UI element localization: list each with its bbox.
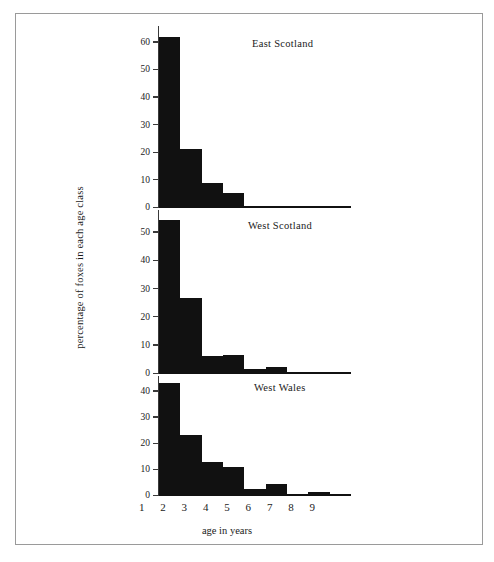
bar-group — [159, 376, 351, 496]
y-tick: 10 — [153, 469, 158, 470]
bar-slot — [330, 376, 351, 496]
y-tick-label: 40 — [141, 92, 151, 102]
x-tick-label: 7 — [259, 501, 280, 513]
bar — [159, 220, 180, 374]
y-tick-label: 20 — [141, 312, 151, 322]
bar-group — [159, 210, 351, 374]
panel-stack: East Scotland 0 10 20 30 40 50 60 West S… — [16, 14, 482, 544]
bar — [308, 206, 329, 208]
y-tick-label: 10 — [141, 464, 151, 474]
y-tick: 40 — [153, 260, 158, 261]
bar — [308, 372, 329, 374]
bar — [330, 372, 351, 374]
bar — [244, 206, 265, 208]
x-tick-label: 5 — [216, 501, 237, 513]
bar — [244, 369, 265, 374]
y-tick-label: 50 — [141, 227, 151, 237]
y-tick-label: 50 — [141, 64, 151, 74]
x-tick-label: 3 — [174, 501, 195, 513]
y-tick-label: 40 — [141, 386, 151, 396]
plot-area: 0 10 20 30 40 50 — [130, 210, 402, 374]
bar-slot — [330, 26, 351, 208]
y-tick: 10 — [153, 179, 158, 180]
x-tick-label: 6 — [238, 501, 259, 513]
bar — [244, 489, 265, 496]
bar-slot — [244, 210, 265, 374]
y-tick-label: 40 — [141, 255, 151, 265]
bar-slot — [266, 210, 287, 374]
panel-east-scotland: East Scotland 0 10 20 30 40 50 60 — [102, 26, 402, 208]
y-tick: 40 — [153, 390, 158, 391]
bar-slot — [202, 210, 223, 374]
bar-slot — [244, 376, 265, 496]
y-tick-label: 10 — [141, 175, 151, 185]
bar — [287, 206, 308, 208]
bar — [266, 484, 287, 496]
bar-slot — [202, 26, 223, 208]
y-tick: 10 — [153, 344, 158, 345]
y-tick: 0 — [153, 373, 158, 374]
bar — [223, 193, 244, 208]
bar-slot — [180, 26, 201, 208]
x-tick-label: 8 — [280, 501, 301, 513]
bar-slot — [266, 26, 287, 208]
bar-slot — [159, 26, 180, 208]
y-tick: 40 — [153, 96, 158, 97]
y-tick-label: 20 — [141, 438, 151, 448]
bar-slot — [266, 376, 287, 496]
bar-slot — [180, 376, 201, 496]
y-tick-label: 10 — [141, 340, 151, 350]
bar-slot — [308, 376, 329, 496]
y-tick-label: 20 — [141, 147, 151, 157]
x-axis-tick-labels: 123456789 — [131, 501, 323, 513]
y-tick: 30 — [153, 416, 158, 417]
bar-slot — [330, 210, 351, 374]
y-tick-label: 30 — [141, 120, 151, 130]
bar-slot — [159, 210, 180, 374]
bar-slot — [159, 376, 180, 496]
panel-west-wales: West Wales 0 10 20 30 40 — [102, 376, 402, 496]
y-tick-label: 0 — [145, 490, 150, 500]
bar — [202, 462, 223, 496]
y-tick: 30 — [153, 288, 158, 289]
bar — [287, 494, 308, 496]
bar — [330, 206, 351, 208]
bar-slot — [308, 26, 329, 208]
y-tick: 20 — [153, 152, 158, 153]
bar-slot — [244, 26, 265, 208]
x-tick-label: 4 — [195, 501, 216, 513]
bar-slot — [287, 26, 308, 208]
y-tick: 20 — [153, 443, 158, 444]
bar-slot — [287, 376, 308, 496]
bar — [266, 206, 287, 208]
bar-slot — [223, 376, 244, 496]
panel-west-scotland: West Scotland 0 10 20 30 40 50 — [102, 210, 402, 374]
y-tick: 0 — [153, 495, 158, 496]
bar — [223, 467, 244, 496]
y-tick: 50 — [153, 231, 158, 232]
bar-slot — [180, 210, 201, 374]
x-axis-title: age in years — [131, 525, 323, 536]
bar — [330, 494, 351, 496]
bar-slot — [223, 210, 244, 374]
bar-slot — [287, 210, 308, 374]
y-tick: 20 — [153, 316, 158, 317]
bar — [308, 492, 329, 496]
bar-slot — [223, 26, 244, 208]
bar — [202, 356, 223, 374]
x-tick-label: 9 — [302, 501, 323, 513]
y-tick: 0 — [153, 207, 158, 208]
bar-slot — [308, 210, 329, 374]
bar — [159, 383, 180, 496]
bar — [180, 298, 201, 374]
bar — [159, 37, 180, 208]
bar — [180, 435, 201, 496]
bar — [223, 355, 244, 374]
bar-group — [159, 26, 351, 208]
y-tick: 30 — [153, 124, 158, 125]
y-tick-label: 30 — [141, 412, 151, 422]
bar-slot — [202, 376, 223, 496]
y-tick: 60 — [153, 41, 158, 42]
figure-frame: percentage of foxes in each age class Ea… — [15, 13, 483, 545]
plot-area: 0 10 20 30 40 50 60 — [130, 26, 402, 208]
